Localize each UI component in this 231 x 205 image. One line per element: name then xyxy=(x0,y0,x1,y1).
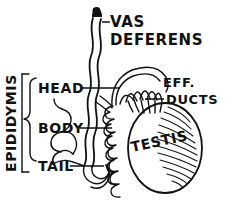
efferent-ducts-label-line2: DUCTS xyxy=(166,92,218,107)
vas-deferens-label-line1: VAS xyxy=(110,13,145,31)
vas-deferens-label-line2: DEFERENS xyxy=(110,31,203,49)
efferent-ducts-label-line1: EFF. xyxy=(163,75,195,90)
epididymis-label: EPIDIDYMIS xyxy=(3,74,19,172)
tail-label: TAIL xyxy=(38,158,74,174)
body-label: BODY xyxy=(38,120,84,136)
head-label: HEAD xyxy=(38,80,84,96)
anatomy-diagram: TESTIS xyxy=(0,0,231,205)
